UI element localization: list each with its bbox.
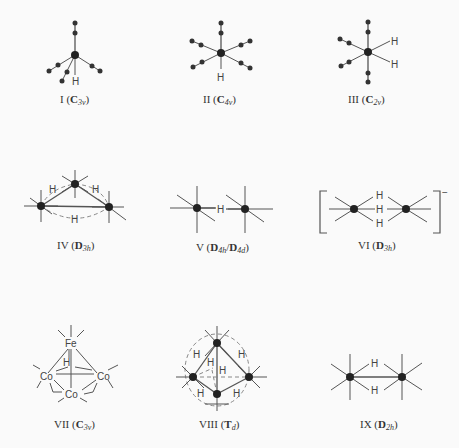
hydrogen-label: H [233, 388, 240, 399]
hydrogen-label: H [71, 214, 78, 225]
structure-label-IX: IX (D2h) [360, 418, 398, 432]
structure-label-V: V (D4h/D4d) [196, 241, 249, 255]
structure-V: H V (D4h/D4d) [170, 186, 273, 255]
hydrogen-label: H [219, 365, 226, 376]
structure-III: H H III (C2v) [338, 20, 399, 108]
hydrogen-label: H [391, 36, 398, 47]
metal-atom [364, 48, 372, 56]
hydrogen-label: H [207, 357, 214, 368]
bracket-right [433, 191, 440, 233]
hydrogen-label: H [197, 388, 204, 399]
structure-VI: − H H H VI (D3h) [320, 187, 448, 253]
structure-VII: Fe H Co Co Co VII (C3v) [33, 325, 118, 432]
bracket-left [320, 191, 327, 233]
hydrogen-label: H [92, 184, 99, 195]
metal-atom [217, 49, 225, 57]
hydrogen-label: H [49, 184, 56, 195]
cobalt-label: Co [65, 389, 78, 400]
structure-II: H II (C4v) [190, 21, 253, 108]
hydrogen-label: H [371, 358, 378, 369]
charge-label: − [442, 187, 448, 198]
cobalt-label: Co [97, 371, 110, 382]
cobalt-label: Co [40, 371, 53, 382]
structure-label-VIII: VIII (Td) [199, 418, 240, 432]
structure-label-VI: VI (D3h) [358, 239, 396, 253]
hydrogen-label: H [376, 218, 383, 229]
hydrogen-label: H [63, 357, 70, 368]
hydrogen-label: H [376, 190, 383, 201]
hydrogen-label: H [391, 59, 398, 70]
metal-atom [71, 51, 79, 59]
structure-IX: H H IX (D2h) [331, 354, 422, 432]
hydrogen-label: H [371, 385, 378, 396]
hydrogen-label: H [193, 349, 200, 360]
iron-label: Fe [65, 338, 77, 349]
structure-label-II: II (C4v) [203, 93, 236, 107]
structure-label-IV: IV (D3h) [57, 239, 95, 253]
hydrogen-label: H [217, 72, 224, 83]
structure-IV: H H H IV (D3h) [24, 170, 126, 253]
structure-VIII: H H H H H H VIII (Td) [176, 326, 267, 432]
hydrogen-label: H [217, 204, 224, 215]
structure-label-I: I (C3v) [60, 93, 90, 107]
structure-I: H I (C3v) [47, 21, 103, 108]
hydrogen-label: H [376, 204, 383, 215]
structure-label-III: III (C2v) [348, 93, 385, 107]
structure-label-VII: VII (C3v) [54, 418, 95, 432]
hydrogen-label: H [72, 76, 79, 87]
hydrogen-label: H [238, 349, 245, 360]
hydride-structures-figure: H I (C3v) H II (C4v) H H III (C2v) [0, 0, 459, 448]
